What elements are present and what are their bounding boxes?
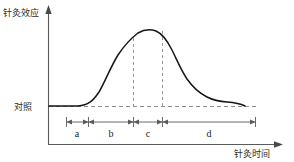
effect-curve xyxy=(49,30,245,106)
phase-label-a: a xyxy=(67,128,87,139)
phase-label-b: b xyxy=(101,128,121,139)
y-axis-arrow-icon xyxy=(45,5,51,14)
y-axis xyxy=(45,5,51,145)
phase-label-c: c xyxy=(138,128,158,139)
y-axis-title: 针灸效应 xyxy=(3,6,39,19)
acupuncture-effect-chart: 针灸效应 针灸时间 对照 a b c d xyxy=(0,0,294,162)
x-axis-arrow-icon xyxy=(274,141,283,147)
phase-label-d: d xyxy=(199,128,219,139)
control-baseline-label: 对照 xyxy=(14,100,32,113)
x-axis-title: 针灸时间 xyxy=(234,147,270,160)
